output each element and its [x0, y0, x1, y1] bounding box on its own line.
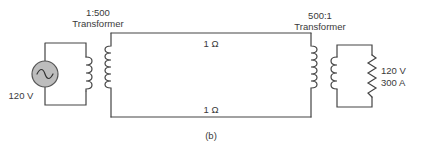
load-loop-wire	[337, 45, 372, 107]
load-voltage-label: 120 V	[381, 65, 413, 76]
bottom-line-resistance-label: 1 Ω	[196, 104, 226, 115]
circuit-diagram	[0, 0, 421, 150]
step-up-secondary-coil-icon	[105, 33, 111, 117]
step-up-primary-coil-icon	[86, 57, 92, 91]
figure-caption: (b)	[196, 130, 226, 141]
source-voltage-label: 120 V	[6, 90, 36, 101]
step-up-transformer-label: Transformer	[68, 18, 128, 29]
step-up-ratio-label: 1:500	[80, 7, 116, 18]
load-current-label: 300 A	[381, 77, 413, 88]
step-down-secondary-coil-icon	[331, 57, 337, 89]
top-line-resistance-label: 1 Ω	[196, 38, 226, 49]
step-down-transformer-label: Transformer	[290, 21, 350, 32]
step-down-ratio-label: 500:1	[300, 10, 340, 21]
resistor-icon	[368, 55, 376, 97]
step-down-primary-coil-icon	[311, 33, 317, 117]
